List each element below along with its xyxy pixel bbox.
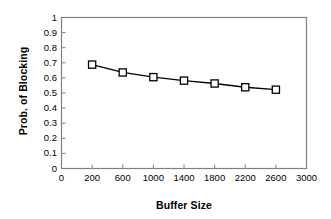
chart-figure: Prob. of Blocking 00.10.20.30.40.50.60.7… — [0, 0, 331, 219]
x-axis-title: Buffer Size — [61, 199, 307, 211]
x-axis-tick-label: 3000 — [287, 173, 327, 183]
x-axis-tick-labels: 0200600100014001800220026003000 — [0, 0, 331, 219]
